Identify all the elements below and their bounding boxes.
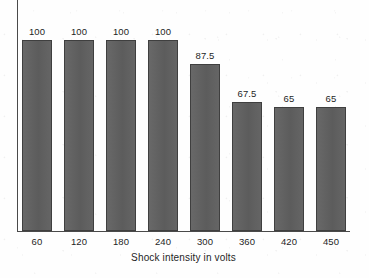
x-tick-label: 180 (99, 236, 143, 248)
bar-rect[interactable] (190, 64, 220, 231)
x-axis-line (17, 231, 350, 232)
bar-rect[interactable] (22, 40, 52, 231)
x-tick-label: 420 (267, 236, 311, 248)
x-tick-label: 60 (15, 236, 59, 248)
bar-rect[interactable] (316, 107, 346, 231)
bar-value-label: 100 (15, 26, 59, 37)
bar-value-label: 87.5 (183, 50, 227, 61)
x-tick-label: 240 (141, 236, 185, 248)
bar-rect[interactable] (64, 40, 94, 231)
x-tick-label: 120 (57, 236, 101, 248)
bar-value-label: 65 (309, 93, 353, 104)
bar-rect[interactable] (106, 40, 136, 231)
bar-value-label: 100 (99, 26, 143, 37)
bar-rect[interactable] (232, 102, 262, 231)
plot-area: 100 100 100 100 87.5 67.5 65 65 (0, 0, 369, 278)
bar-chart-figure: 100 100 100 100 87.5 67.5 65 65 (0, 0, 369, 278)
bar-value-label: 100 (141, 26, 185, 37)
bar-value-label: 100 (57, 26, 101, 37)
x-tick-label: 300 (183, 236, 227, 248)
x-tick-label: 450 (309, 236, 353, 248)
bar-rect[interactable] (274, 107, 304, 231)
x-tick-label: 360 (225, 236, 269, 248)
bar-rect[interactable] (148, 40, 178, 231)
bar-value-label: 65 (267, 93, 311, 104)
bar-value-label: 67.5 (225, 88, 269, 99)
x-axis-title: Shock intensity in volts (17, 251, 350, 264)
